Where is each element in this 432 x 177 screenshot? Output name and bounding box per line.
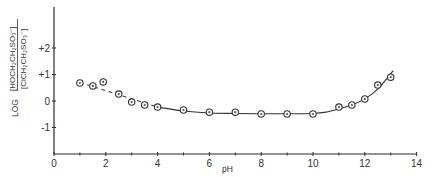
y-ticks: +2+10-1 (39, 43, 56, 134)
data-point (180, 107, 186, 113)
data-points (77, 74, 394, 117)
x-tick-label: 2 (103, 158, 109, 169)
y-tick-label: -1 (41, 122, 50, 133)
data-point (362, 96, 368, 102)
data-point (336, 104, 342, 110)
x-tick-label: 6 (207, 158, 213, 169)
data-point (375, 82, 381, 88)
data-point (141, 102, 147, 108)
y-tick-label: +1 (39, 69, 51, 80)
x-tick-label: 12 (359, 158, 371, 169)
x-tick-label: 10 (307, 158, 319, 169)
data-point (310, 111, 316, 117)
data-point (206, 109, 212, 115)
x-tick-label: 14 (411, 158, 423, 169)
data-point (116, 91, 122, 97)
y-axis-label-denominator: [ClCH₂CH₂SO₃⁻] (19, 29, 28, 89)
data-point (258, 111, 264, 117)
data-point (349, 102, 355, 108)
solid-fit-curve (158, 71, 394, 114)
data-point (129, 99, 135, 105)
x-axis-label: pH (222, 164, 233, 174)
y-axis-label-numerator: [HOCH₂CH₂SO₃⁻] (8, 26, 17, 91)
y-tick-label: 0 (44, 96, 50, 107)
data-point (388, 74, 394, 80)
data-point (77, 80, 83, 86)
x-tick-label: 8 (258, 158, 264, 169)
y-tick-label: +2 (39, 43, 51, 54)
y-axis-label: LOG [HOCH₂CH₂SO₃⁻] [ClCH₂CH₂SO₃⁻] (8, 19, 28, 117)
chart: 02468101214 +2+10-1 pH LOG [HOCH₂CH₂SO₃⁻… (0, 0, 432, 177)
x-tick-label: 4 (155, 158, 161, 169)
data-point (284, 111, 290, 117)
data-point (232, 109, 238, 115)
x-tick-label: 0 (51, 158, 57, 169)
data-point (154, 104, 160, 110)
y-axis-label-prefix: LOG (10, 99, 20, 117)
data-point (90, 83, 96, 89)
data-point (100, 79, 106, 85)
